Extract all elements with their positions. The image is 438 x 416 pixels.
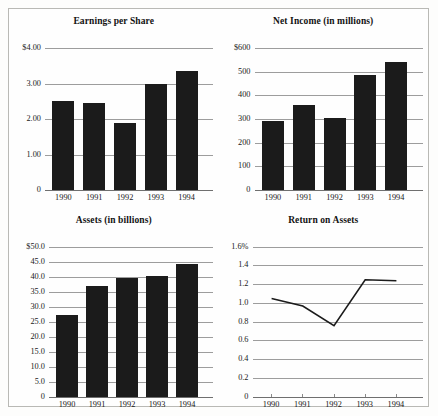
line-series xyxy=(253,247,415,397)
x-axis-tick-label: 1994 xyxy=(388,401,405,409)
y-axis-tick-label: 30.0 xyxy=(30,302,45,310)
y-axis-tick-label: 200 xyxy=(238,139,250,147)
y-axis-tick-label: 3.00 xyxy=(26,79,41,87)
bar-1992 xyxy=(116,278,138,397)
bar-1992 xyxy=(114,123,136,190)
y-axis-tick-label: 500 xyxy=(238,68,250,76)
bar-1994 xyxy=(176,71,198,190)
y-axis-tick-label: 15.0 xyxy=(30,347,45,355)
y-axis-tick-label: 1.0 xyxy=(238,299,248,307)
y-axis-tick-label: 1.2 xyxy=(238,280,248,288)
x-axis-tick-label: 1990 xyxy=(263,401,280,409)
x-axis-tick-label: 1991 xyxy=(295,194,312,202)
y-axis-tick-label: 0.8 xyxy=(238,317,248,325)
y-axis-tick-label: 1.00 xyxy=(26,150,41,158)
x-axis-tick-label: 1994 xyxy=(178,194,195,202)
bar-1993 xyxy=(145,84,167,190)
plot-area-net-income: $600500400300200100019901991199219931994 xyxy=(255,48,415,190)
y-axis-tick-label: 20.0 xyxy=(30,332,45,340)
y-axis-tick-label: 35.0 xyxy=(30,287,45,295)
plot-area-return-on-assets: 1.6%1.41.21.00.80.60.40.2019901991199219… xyxy=(253,247,415,397)
y-axis-tick-label: 10.0 xyxy=(30,362,45,370)
y-axis-tick-label: 0.4 xyxy=(238,355,248,363)
x-axis-tick-label: 1994 xyxy=(179,401,196,409)
plot-area-assets: $50.045.040.035.030.025.020.015.010.05.0… xyxy=(49,247,205,397)
bar-1994 xyxy=(176,264,198,397)
bar-series xyxy=(49,247,205,397)
x-axis-tickmark xyxy=(365,394,366,397)
x-axis-tick-label: 1990 xyxy=(59,401,76,409)
y-axis-tick-label: 400 xyxy=(238,91,250,99)
y-axis-tick-label: 40.0 xyxy=(30,272,45,280)
y-axis-tick-label: $50.0 xyxy=(26,242,45,250)
x-axis-tickmark xyxy=(396,394,397,397)
y-axis-tick-label: 2.00 xyxy=(26,115,41,123)
bar-series xyxy=(255,48,415,190)
x-axis-tick-label: 1992 xyxy=(117,194,134,202)
x-axis-line xyxy=(45,190,213,191)
x-axis-tick-label: 1993 xyxy=(357,194,374,202)
panel-earnings-per-share: Earnings per Share $4.003.002.001.000199… xyxy=(9,9,219,208)
y-axis-tick-label: 0 xyxy=(41,392,45,400)
y-axis-tick-label: 100 xyxy=(238,162,250,170)
x-axis-tick-label: 1990 xyxy=(265,194,282,202)
x-axis-tickmark xyxy=(334,394,335,397)
y-axis-tick-label: 1.4 xyxy=(238,261,248,269)
chart-title-assets: Assets (in billions) xyxy=(9,208,219,225)
financial-charts-figure: Earnings per Share $4.003.002.001.000199… xyxy=(0,0,438,416)
y-axis-tick-label: 300 xyxy=(238,115,250,123)
bar-1992 xyxy=(324,118,346,190)
x-axis-line xyxy=(255,190,423,191)
plot-area-earnings-per-share: $4.003.002.001.00019901991199219931994 xyxy=(45,48,205,190)
x-axis-tick-label: 1992 xyxy=(119,401,136,409)
bar-1990 xyxy=(52,101,74,190)
chart-grid: Earnings per Share $4.003.002.001.000199… xyxy=(9,9,428,406)
x-axis-tickmark xyxy=(271,394,272,397)
chart-title-net-income: Net Income (in millions) xyxy=(219,9,429,26)
y-axis-tick-label: 0 xyxy=(37,186,41,194)
y-axis-tick-label: $600 xyxy=(234,44,251,52)
y-axis-tick-label: 25.0 xyxy=(30,317,45,325)
bar-1990 xyxy=(56,315,78,397)
bar-1991 xyxy=(293,105,315,190)
bar-1991 xyxy=(83,103,105,190)
chart-title-return-on-assets: Return on Assets xyxy=(219,208,429,225)
bar-1991 xyxy=(86,286,108,397)
bar-1994 xyxy=(385,62,407,191)
chart-title-earnings-per-share: Earnings per Share xyxy=(9,9,219,26)
x-axis-tick-label: 1992 xyxy=(326,194,343,202)
bar-series xyxy=(45,48,205,190)
bar-1993 xyxy=(354,75,376,190)
bar-1990 xyxy=(262,121,284,190)
panel-assets: Assets (in billions) $50.045.040.035.030… xyxy=(9,208,219,407)
panel-return-on-assets: Return on Assets 1.6%1.41.21.00.80.60.40… xyxy=(219,208,429,407)
panel-net-income: Net Income (in millions) $60050040030020… xyxy=(219,9,429,208)
x-axis-tick-label: 1994 xyxy=(388,194,405,202)
x-axis-tick-label: 1992 xyxy=(325,401,342,409)
y-axis-tick-label: 45.0 xyxy=(30,257,45,265)
y-axis-tick-label: 5.0 xyxy=(35,377,45,385)
x-axis-tick-label: 1993 xyxy=(356,401,373,409)
x-axis-tick-label: 1991 xyxy=(86,194,103,202)
x-axis-line xyxy=(49,397,213,398)
x-axis-tick-label: 1993 xyxy=(149,401,166,409)
bar-1993 xyxy=(146,276,168,397)
x-axis-tick-label: 1991 xyxy=(294,401,311,409)
x-axis-tickmark xyxy=(302,394,303,397)
y-axis-tick-label: 1.6% xyxy=(231,242,248,250)
x-axis-tick-label: 1991 xyxy=(89,401,106,409)
y-axis-tick-label: 0.6 xyxy=(238,336,248,344)
y-axis-tick-label: 0 xyxy=(246,186,250,194)
x-axis-tick-label: 1993 xyxy=(148,194,165,202)
y-axis-tick-label: $4.00 xyxy=(22,44,41,52)
y-axis-tick-label: 0.2 xyxy=(238,374,248,382)
x-axis-line xyxy=(253,397,423,398)
x-axis-tick-label: 1990 xyxy=(55,194,72,202)
y-axis-tick-label: 0 xyxy=(244,392,248,400)
